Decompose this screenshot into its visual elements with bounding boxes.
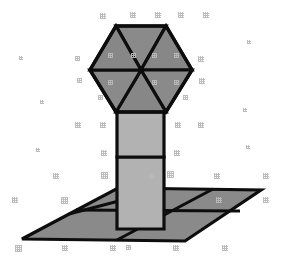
column-group — [117, 110, 164, 229]
geometric-solid-illustration — [0, 0, 282, 262]
hexagon-cap-group — [90, 26, 192, 112]
column-lower-segment — [117, 157, 164, 229]
column-upper-segment — [117, 110, 164, 157]
figure-canvas — [0, 0, 282, 262]
